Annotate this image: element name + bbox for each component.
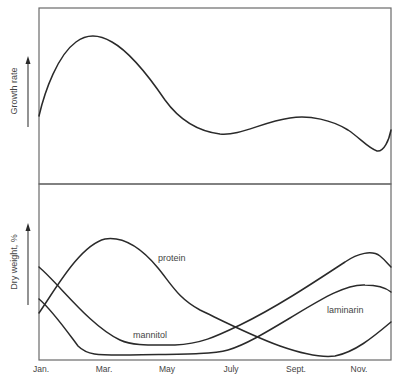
- x-tick-sept: Sept.: [286, 364, 306, 374]
- dry-weight-axis-label: Dry weight, %: [9, 234, 19, 290]
- growth-rate-arrow-icon: [26, 56, 31, 64]
- x-tick-mar: Mar.: [96, 364, 113, 374]
- growth-rate-axis-label: Growth rate: [9, 67, 19, 114]
- mannitol-label: mannitol: [133, 330, 167, 340]
- x-tick-nov: Nov.: [351, 364, 368, 374]
- x-tick-jan: Jan.: [33, 364, 49, 374]
- seasonal-chart: protein mannitol laminarin Growth rate D…: [0, 0, 401, 377]
- x-tick-may: May: [159, 364, 176, 374]
- x-tick-july: July: [223, 364, 239, 374]
- protein-curve: [39, 239, 391, 357]
- growth-rate-curve: [39, 36, 391, 151]
- laminarin-label: laminarin: [327, 305, 364, 315]
- mannitol-curve: [39, 253, 391, 345]
- bottom-panel-frame: [39, 184, 391, 360]
- dry-weight-arrow-icon: [26, 223, 31, 231]
- protein-label: protein: [158, 253, 186, 263]
- top-panel-frame: [39, 8, 391, 184]
